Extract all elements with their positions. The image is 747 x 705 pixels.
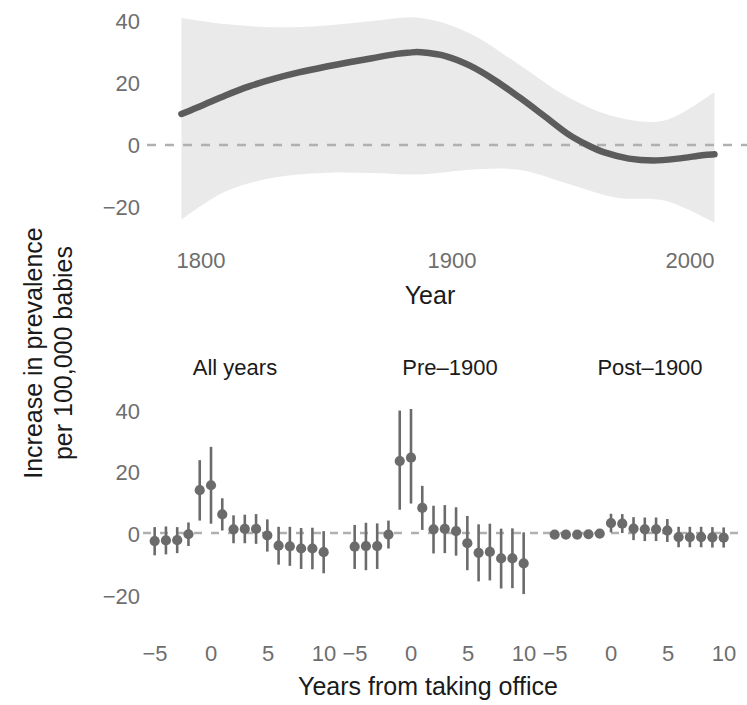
top-ytick-0: 0 — [92, 133, 140, 159]
bottom-x-axis-title: Years from taking office — [268, 672, 588, 701]
top-ytick-40: 40 — [92, 9, 140, 35]
top-xtick-1900: 1900 — [423, 248, 481, 274]
bottom-xtick-1-neg5: −5 — [332, 641, 378, 667]
y-axis-title-line2: per 100,000 babies — [48, 227, 78, 479]
bottom-xtick-2-five: 5 — [647, 641, 689, 667]
top-ytick-neg20: −20 — [88, 195, 140, 221]
facet-plot-all-years — [143, 396, 339, 636]
facet-label-pre-1900: Pre–1900 — [370, 355, 530, 381]
bottom-xtick-2-zero: 0 — [590, 641, 632, 667]
bottom-xtick-1-five: 5 — [447, 641, 489, 667]
bottom-xtick-1-zero: 0 — [390, 641, 432, 667]
y-axis-title: Increase in prevalence per 100,000 babie… — [0, 0, 95, 705]
top-plot-area — [147, 0, 747, 240]
bottom-xtick-0-zero: 0 — [190, 641, 232, 667]
top-ytick-20: 20 — [92, 71, 140, 97]
facet-label-all-years: All years — [155, 355, 315, 381]
bottom-xtick-2-ten: 10 — [701, 641, 747, 667]
facet-label-post-1900: Post–1900 — [565, 355, 735, 381]
bottom-xtick-0-five: 5 — [247, 641, 289, 667]
bottom-xtick-2-neg5: −5 — [532, 641, 578, 667]
y-axis-title-line1: Increase in prevalence — [18, 227, 46, 479]
figure-root: Increase in prevalence per 100,000 babie… — [0, 0, 747, 705]
bottom-ytick-20: 20 — [92, 460, 140, 486]
bottom-xtick-0-neg5: −5 — [132, 641, 178, 667]
top-xtick-1800: 1800 — [172, 248, 230, 274]
top-x-axis-title: Year — [330, 281, 530, 310]
facet-plot-post-1900 — [543, 396, 739, 636]
top-xtick-2000: 2000 — [661, 248, 719, 274]
bottom-ytick-40: 40 — [92, 399, 140, 425]
bottom-ytick-0: 0 — [92, 522, 140, 548]
facet-plot-pre-1900 — [343, 396, 539, 636]
bottom-ytick-neg20: −20 — [88, 584, 140, 610]
